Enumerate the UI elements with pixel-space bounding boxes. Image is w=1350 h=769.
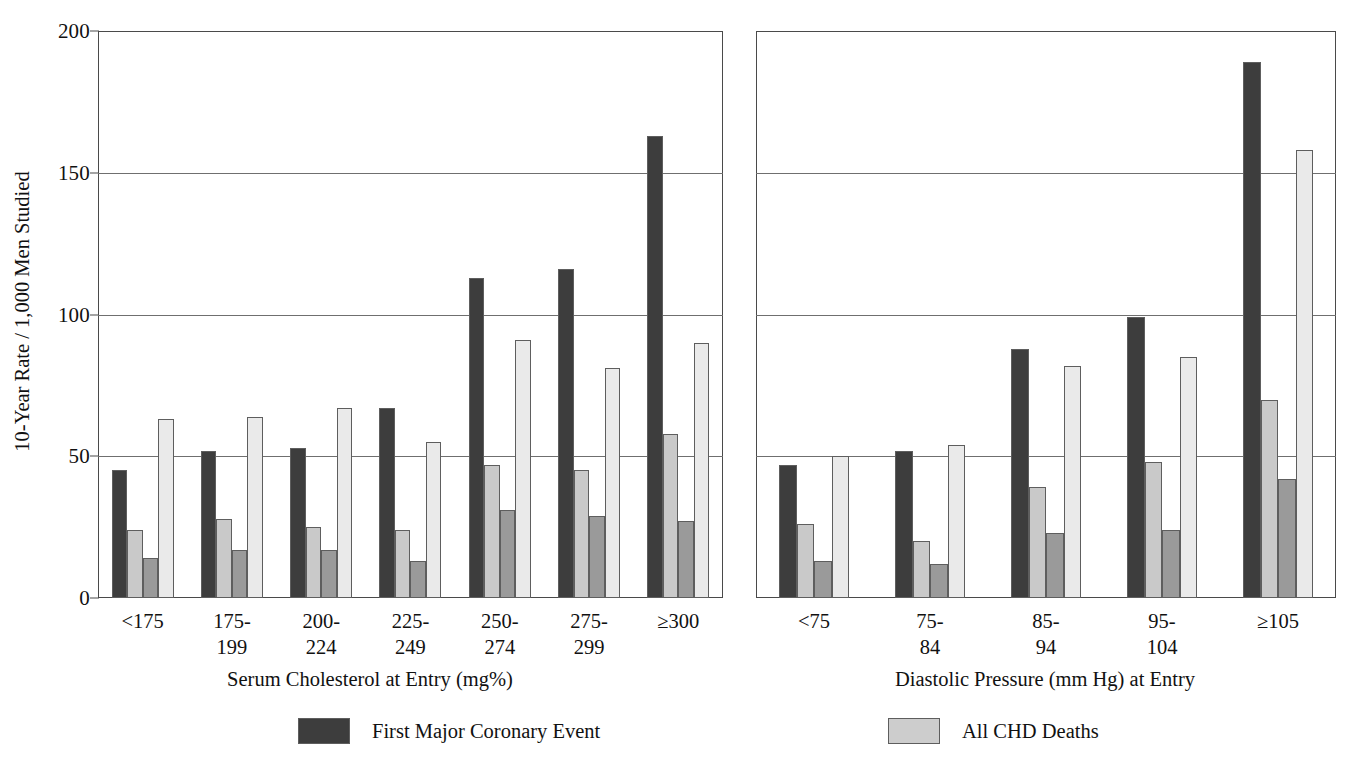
bar <box>112 470 128 598</box>
bar <box>247 417 263 598</box>
plot-area-cholesterol <box>98 31 723 598</box>
bar-group <box>872 31 988 598</box>
bar <box>913 541 931 598</box>
bar <box>469 278 485 598</box>
bar <box>1011 349 1029 598</box>
x-axis-tick-label: 275- 299 <box>570 608 608 660</box>
x-axis-tick-label: ≥105 <box>1257 608 1299 634</box>
bar-group <box>366 31 455 598</box>
bar-group <box>756 31 872 598</box>
x-axis-tick-label: 250- 274 <box>481 608 519 660</box>
bar <box>1064 366 1082 598</box>
bar <box>895 451 913 598</box>
bar <box>515 340 531 598</box>
x-axis-tick-label: 85- 94 <box>1032 608 1059 660</box>
bar <box>143 558 159 598</box>
bar <box>1127 317 1145 598</box>
bar <box>797 524 815 598</box>
bar <box>663 434 679 598</box>
bar <box>1243 62 1261 598</box>
x-axis-title-cholesterol: Serum Cholesterol at Entry (mg%) <box>0 668 740 691</box>
chart-figure: 10-Year Rate / 1,000 Men Studied 0501001… <box>0 0 1350 769</box>
x-axis-tick-label: <75 <box>798 608 830 634</box>
bar-group <box>988 31 1104 598</box>
panel-diastolic-pressure: <7575- 8485- 9495- 104≥105 Diastolic Pre… <box>740 0 1350 700</box>
chart-legend: First Major Coronary Event All CHD Death… <box>0 700 1350 769</box>
bar <box>694 343 710 598</box>
panel-serum-cholesterol: <175175- 199200- 224225- 249250- 274275-… <box>0 0 740 700</box>
bar <box>306 527 322 598</box>
bar <box>127 530 143 598</box>
bar <box>158 419 174 598</box>
legend-item-first-major-coronary-event: First Major Coronary Event <box>298 718 600 744</box>
bar <box>1296 150 1314 598</box>
bar-group <box>277 31 366 598</box>
bar <box>500 510 516 598</box>
bar <box>395 530 411 598</box>
bar <box>814 561 832 598</box>
bar-group <box>98 31 187 598</box>
x-axis-tick-label: 175- 199 <box>213 608 251 660</box>
legend-item-all-chd-deaths: All CHD Deaths <box>888 718 1099 744</box>
legend-swatch-light <box>888 718 940 744</box>
x-axis-title-diastolic: Diastolic Pressure (mm Hg) at Entry <box>740 668 1350 691</box>
bar <box>410 561 426 598</box>
bar <box>321 550 337 598</box>
bar <box>1278 479 1296 598</box>
x-axis-tick-label: 75- 84 <box>916 608 943 660</box>
bar <box>832 456 850 598</box>
x-axis-tick-label: 225- 249 <box>392 608 430 660</box>
bar <box>558 269 574 598</box>
bar <box>1145 462 1163 598</box>
x-axis-tick-label: 200- 224 <box>302 608 340 660</box>
bar <box>930 564 948 598</box>
bar-group <box>455 31 544 598</box>
bar <box>426 442 442 598</box>
bar <box>1261 400 1279 598</box>
x-axis-labels-cholesterol: <175175- 199200- 224225- 249250- 274275-… <box>0 608 740 670</box>
x-axis-labels-diastolic: <7575- 8485- 9495- 104≥105 <box>740 608 1350 670</box>
bar <box>574 470 590 598</box>
bar <box>232 550 248 598</box>
bar <box>290 448 306 598</box>
x-axis-tick-label: 95- 104 <box>1147 608 1178 660</box>
bar-group <box>634 31 723 598</box>
bar <box>948 445 966 598</box>
bar-group <box>1220 31 1336 598</box>
bar <box>484 465 500 598</box>
bar <box>201 451 217 598</box>
bar <box>779 465 797 598</box>
x-axis-tick-label: ≥300 <box>657 608 699 634</box>
bar <box>379 408 395 598</box>
bar <box>605 368 621 598</box>
bar <box>1162 530 1180 598</box>
bar-group <box>544 31 633 598</box>
bar <box>678 521 694 598</box>
bar <box>1029 487 1047 598</box>
bar <box>647 136 663 598</box>
legend-label: First Major Coronary Event <box>372 720 600 743</box>
legend-label: All CHD Deaths <box>962 720 1099 743</box>
bar <box>1046 533 1064 598</box>
bar-group <box>1104 31 1220 598</box>
x-axis-tick-label: <175 <box>121 608 163 634</box>
legend-swatch-dark <box>298 718 350 744</box>
bar <box>1180 357 1198 598</box>
bar <box>337 408 353 598</box>
plot-area-diastolic <box>756 31 1336 598</box>
bar <box>216 519 232 598</box>
bar-group <box>187 31 276 598</box>
bar <box>589 516 605 598</box>
